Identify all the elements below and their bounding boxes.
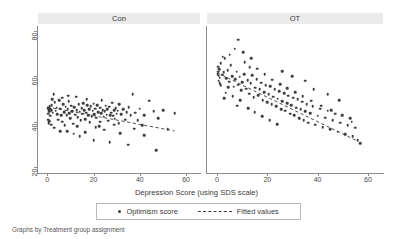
x-tick-label: 60: [176, 176, 196, 183]
scatter-point: [268, 93, 271, 96]
scatter-point: [132, 93, 135, 96]
scatter-point: [245, 87, 248, 90]
scatter-point: [269, 85, 272, 88]
scatter-point: [226, 69, 229, 72]
scatter-point: [304, 110, 307, 113]
scatter-point: [225, 77, 228, 80]
scatter-point: [326, 93, 329, 96]
scatter-point: [286, 102, 289, 105]
scatter-point: [111, 101, 114, 104]
scatter-point: [81, 112, 84, 115]
scatter-point: [234, 78, 237, 81]
scatter-point: [330, 109, 333, 112]
scatter-point: [73, 132, 76, 135]
scatter-point: [66, 108, 69, 111]
scatter-point: [350, 121, 353, 124]
scatter-point: [104, 105, 107, 108]
scatter-point: [219, 76, 222, 79]
scatter-point: [277, 97, 280, 100]
scatter-point: [73, 106, 76, 109]
scatter-point: [100, 112, 103, 115]
scatter-point: [254, 86, 257, 89]
scatter-point: [257, 94, 260, 97]
scatter-point: [133, 127, 136, 130]
scatter-point: [162, 109, 165, 112]
scatter-point: [87, 114, 90, 117]
scatter-point: [295, 106, 298, 109]
scatter-point: [116, 110, 119, 113]
scatter-point: [92, 139, 95, 142]
scatter-point: [118, 103, 121, 106]
scatter-point: [51, 98, 54, 101]
scatter-point: [286, 87, 289, 90]
scatter-point: [48, 122, 51, 125]
x-tick-label: 20: [257, 176, 277, 183]
scatter-point: [228, 53, 231, 56]
scatter-point: [220, 62, 223, 65]
scatter-point: [152, 110, 155, 113]
scatter-point: [289, 112, 292, 115]
scatter-point: [291, 75, 294, 78]
scatter-point: [106, 108, 109, 111]
scatter-point: [155, 149, 158, 152]
plot-area-ot: [207, 26, 383, 172]
scatter-point: [82, 102, 85, 105]
scatter-point: [69, 117, 72, 120]
scatter-point: [271, 103, 274, 106]
chart-footnote: Graphs by Treatment group assignment: [12, 226, 125, 233]
x-tick-label: 60: [358, 176, 378, 183]
scatter-point: [294, 91, 297, 94]
scatter-point: [148, 100, 151, 103]
scatter-point: [252, 96, 255, 99]
legend-item-optimism-score: Optimism score: [118, 207, 178, 216]
scatter-point: [247, 107, 250, 110]
scatter-point: [319, 107, 322, 110]
scatter-point: [314, 123, 317, 126]
panel-header-con-label: Con: [112, 14, 126, 23]
scatter-point: [290, 104, 293, 107]
scatter-point: [173, 112, 176, 115]
plot-area-con: [38, 26, 200, 172]
scatter-point: [313, 88, 316, 91]
scatter-point: [166, 128, 169, 131]
scatter-point: [229, 64, 232, 67]
scatter-point: [218, 68, 221, 71]
scatter-point: [262, 99, 265, 102]
scatter-point: [324, 116, 327, 119]
scatter-point: [256, 68, 259, 71]
scatter-point: [266, 101, 269, 104]
scatter-point: [264, 73, 267, 76]
scatter-point: [49, 115, 52, 118]
scatter-point: [56, 113, 59, 116]
scatter-point: [103, 128, 106, 131]
scatter-point: [243, 73, 246, 76]
scatter-point: [263, 91, 266, 94]
x-tick-label: 40: [308, 176, 328, 183]
scatter-point: [249, 82, 252, 85]
y-tick-label: 40: [31, 120, 38, 134]
scatter-point: [307, 121, 310, 124]
scatter-point: [240, 89, 243, 92]
scatter-point: [279, 83, 282, 86]
x-axis-line-con: [37, 173, 201, 174]
scatter-point: [265, 84, 268, 87]
scatter-point: [299, 108, 302, 111]
scatter-point: [261, 115, 264, 118]
scatter-point: [344, 133, 347, 136]
scatter-point: [302, 119, 305, 122]
scatter-point: [64, 124, 67, 127]
scatter-point: [231, 95, 234, 98]
scatter-point: [157, 117, 160, 120]
scatter-point: [143, 134, 146, 137]
scatter-point: [126, 111, 129, 114]
scatter-point: [238, 75, 241, 78]
scatter-point: [92, 102, 95, 105]
scatter-point: [99, 121, 102, 124]
scatter-point: [108, 105, 111, 108]
scatter-point: [292, 96, 295, 99]
scatter-point: [221, 74, 224, 77]
x-tick-label: 0: [207, 176, 227, 183]
scatter-point: [58, 99, 61, 102]
scatter-point: [359, 142, 362, 145]
scatter-point: [221, 55, 224, 58]
